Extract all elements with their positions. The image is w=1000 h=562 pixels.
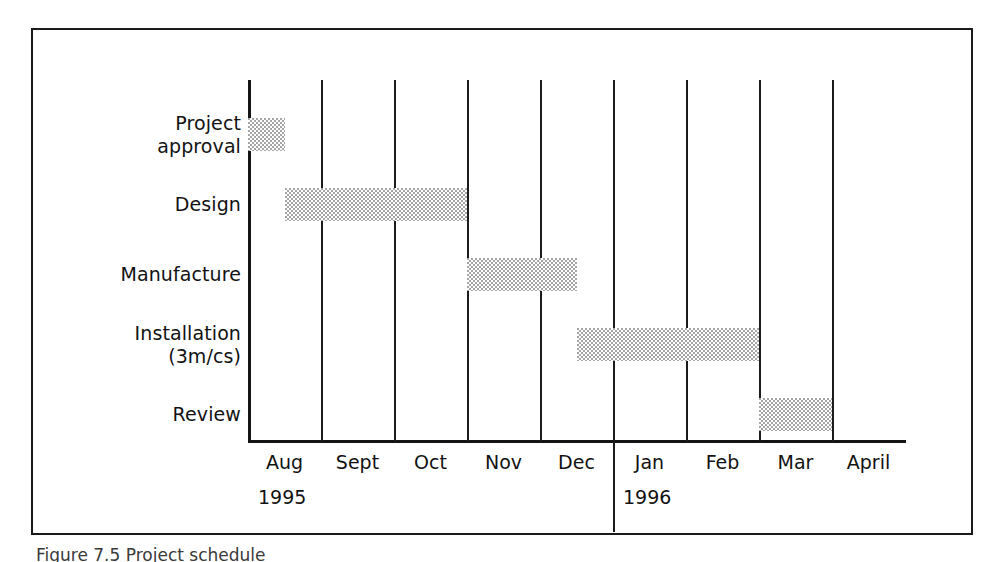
task-label-review: Review xyxy=(33,403,241,426)
month-label-dec: Dec xyxy=(540,450,613,474)
month-label-mar: Mar xyxy=(759,450,832,474)
gantt-chart: Project approvalDesignManufactureInstall… xyxy=(33,30,975,537)
figure-frame: Project approvalDesignManufactureInstall… xyxy=(31,28,973,535)
gridline-month-7 xyxy=(759,80,761,442)
year-label-1995: 1995 xyxy=(258,485,306,509)
month-label-jan: Jan xyxy=(613,450,686,474)
month-label-feb: Feb xyxy=(686,450,759,474)
gridline-month-2 xyxy=(394,80,396,442)
month-label-sept: Sept xyxy=(321,450,394,474)
task-bar-review[interactable] xyxy=(759,398,832,431)
task-bar-project-approval[interactable] xyxy=(248,118,285,151)
task-bar-design[interactable] xyxy=(285,188,468,221)
month-label-april: April xyxy=(832,450,905,474)
gridline-month-8 xyxy=(832,80,834,442)
task-label-installation: Installation (3m/cs) xyxy=(33,322,241,368)
task-bar-manufacture[interactable] xyxy=(467,258,577,291)
gridline-month-1 xyxy=(321,80,323,442)
x-axis-line xyxy=(248,440,906,443)
task-label-project-approval: Project approval xyxy=(33,112,241,158)
month-label-nov: Nov xyxy=(467,450,540,474)
gridline-month-6 xyxy=(686,80,688,442)
month-label-aug: Aug xyxy=(248,450,321,474)
figure-caption: Figure 7.5 Project schedule xyxy=(36,545,266,562)
task-bar-installation[interactable] xyxy=(577,328,760,361)
year-label-1996: 1996 xyxy=(623,485,671,509)
task-label-design: Design xyxy=(33,193,241,216)
month-label-oct: Oct xyxy=(394,450,467,474)
task-label-manufacture: Manufacture xyxy=(33,263,241,286)
